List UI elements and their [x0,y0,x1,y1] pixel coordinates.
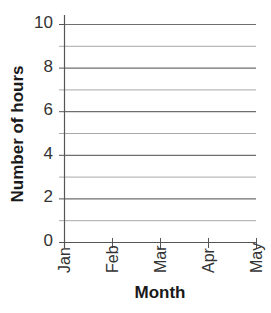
y-axis-label: Number of hours [8,66,28,203]
y-tick-label: 6 [44,100,53,120]
y-tick-label: 8 [44,57,53,77]
y-tick-label: 10 [34,13,53,33]
plot-svg [0,0,271,313]
y-tick-label: 4 [44,144,53,164]
x-axis-label: Month [135,283,186,303]
chart-area: Number of hours 0246810 JanFebMarAprMay … [0,0,271,313]
y-tick-label: 2 [44,187,53,207]
y-tick-label: 0 [44,231,53,251]
